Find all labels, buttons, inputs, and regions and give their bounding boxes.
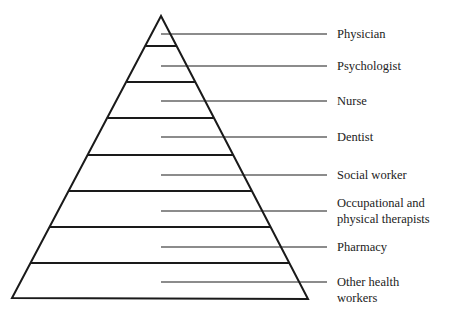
pyramid-outline <box>12 16 308 299</box>
label-line-2: physical therapists <box>337 211 430 227</box>
label-occupational-physical-therapists: Occupational and physical therapists <box>337 195 430 227</box>
layer-dividers <box>31 46 290 263</box>
label-line-1: Occupational and <box>337 195 430 211</box>
label-line-1: Other health <box>337 274 399 290</box>
label-physician: Physician <box>337 26 386 42</box>
label-nurse: Nurse <box>337 93 367 109</box>
label-pharmacy: Pharmacy <box>337 239 387 255</box>
leader-lines <box>161 34 327 282</box>
label-social-worker: Social worker <box>337 167 407 183</box>
label-psychologist: Psychologist <box>337 58 401 74</box>
label-line-2: workers <box>337 290 399 306</box>
label-other-health-workers: Other health workers <box>337 274 399 306</box>
label-dentist: Dentist <box>337 129 373 145</box>
